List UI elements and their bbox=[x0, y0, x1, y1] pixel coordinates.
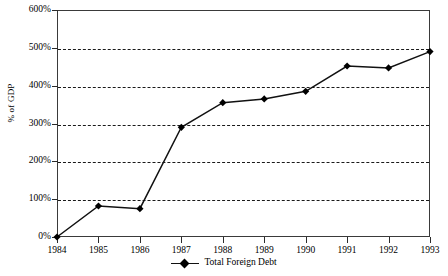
data-point-1993 bbox=[426, 48, 433, 55]
legend-label-total-foreign-debt: Total Foreign Debt bbox=[204, 258, 276, 268]
data-point-1989 bbox=[261, 95, 268, 102]
data-point-1988 bbox=[219, 99, 226, 106]
series-layer bbox=[0, 0, 448, 276]
series-markers bbox=[53, 48, 433, 241]
chart-container: % of GDP 0%100%200%300%400%500%600% 1984… bbox=[0, 0, 448, 276]
data-point-1987 bbox=[178, 124, 185, 131]
diamond-marker-icon bbox=[180, 258, 190, 268]
legend-key-total-foreign-debt bbox=[171, 258, 199, 268]
data-point-1990 bbox=[302, 88, 309, 95]
legend: Total Foreign Debt bbox=[0, 258, 448, 268]
data-point-1986 bbox=[136, 205, 143, 212]
data-point-1991 bbox=[344, 62, 351, 69]
data-point-1992 bbox=[385, 64, 392, 71]
series-line-total-foreign-debt bbox=[57, 52, 430, 237]
